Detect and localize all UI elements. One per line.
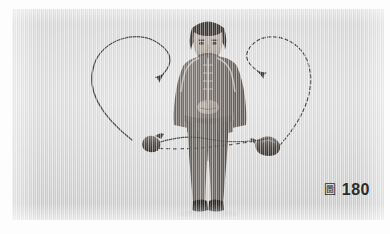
figure-number: 180: [342, 182, 370, 198]
clasped-hands: [197, 100, 219, 114]
shoe-right: [208, 200, 224, 212]
photograph-plate: 圖 180: [12, 9, 384, 220]
figure-caption: 圖 180: [324, 182, 370, 198]
shoe-left: [192, 200, 208, 212]
figure-glyph: 圖: [324, 184, 336, 196]
dashed-motion-path: [247, 37, 311, 145]
page-root: 圖 180: [0, 0, 390, 234]
solid-motion-path: [92, 37, 170, 140]
ground-shadow: [178, 210, 238, 218]
rope-weight-left: [142, 133, 164, 152]
person-figure: [174, 22, 247, 219]
